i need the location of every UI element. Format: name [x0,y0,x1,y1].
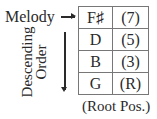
note-cell: B [79,51,113,73]
chord-voicing-table: F♯ (7) D (5) B (3) G (R) [78,6,149,95]
table-row: B (3) [79,51,149,73]
table-row: F♯ (7) [79,7,149,29]
descending-order-label: Descending Order [14,30,54,94]
note-cell: D [79,29,113,51]
interval-cell: (3) [113,51,149,73]
melody-label: Melody [5,8,55,26]
table-row: G (R) [79,73,149,95]
down-arrow-icon [64,32,66,90]
note-cell: F♯ [79,7,113,29]
interval-cell: (R) [113,73,149,95]
caption: (Root Pos.) [82,97,150,115]
interval-cell: (5) [113,29,149,51]
table-row: D (5) [79,29,149,51]
interval-cell: (7) [113,7,149,29]
melody-arrow-icon [61,16,75,18]
axis-label-line2: Order [34,27,48,98]
axis-label-line1: Descending [20,27,34,98]
note-cell: G [79,73,113,95]
